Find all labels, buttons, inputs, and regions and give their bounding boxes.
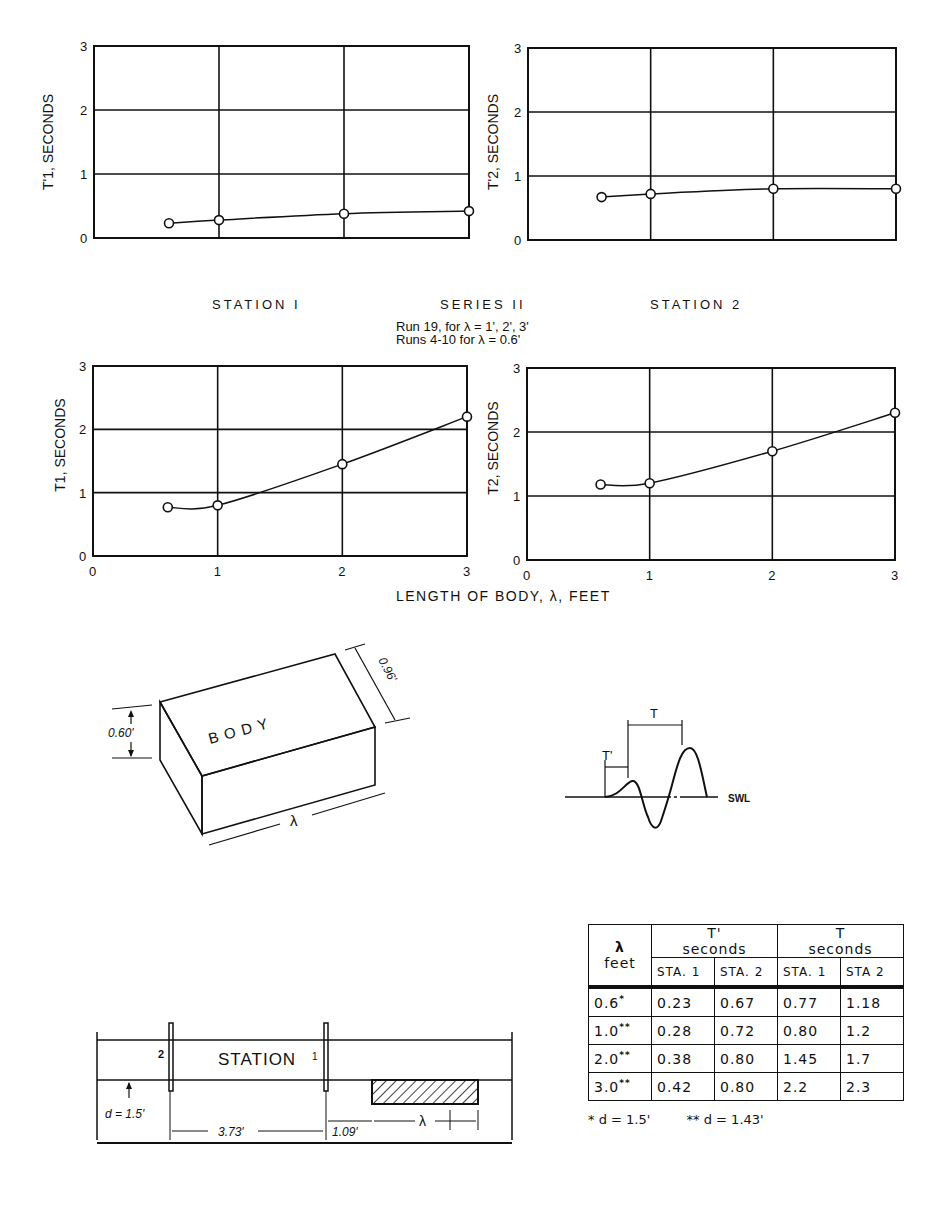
chart-t2prime-station2: 0123 — [514, 41, 901, 248]
data-point-marker — [463, 412, 472, 421]
data-point-marker — [340, 209, 349, 218]
period-table: λ feet T' seconds T seconds STA. 1 STA. … — [588, 924, 904, 1101]
depth-label: d = 1.5' — [105, 1107, 145, 1121]
chart-t1prime-station1: 0123 — [80, 39, 474, 246]
header-t: T seconds — [778, 925, 904, 958]
y-axis-label-t1prime: T'1, SECONDS — [40, 94, 56, 190]
y-tick-label: 3 — [513, 361, 520, 376]
gauge1-label: 1 — [312, 1051, 318, 1062]
y-tick-label: 3 — [79, 359, 86, 374]
y-tick-label: 0 — [513, 553, 520, 568]
table-row: 1.0** 0.280.72 0.801.2 — [589, 1017, 904, 1045]
x-tick-label: 0 — [523, 568, 530, 583]
y-tick-label: 3 — [514, 41, 521, 56]
table-footnotes: * d = 1.5' ** d = 1.43' — [588, 1112, 764, 1127]
arrow-icon — [128, 750, 134, 757]
data-point-marker — [891, 408, 900, 417]
body-label: B O D Y — [206, 714, 270, 746]
footnote-1: * d = 1.5' — [588, 1112, 650, 1127]
header-lambda: λ feet — [589, 925, 652, 988]
x-tick-label: 3 — [891, 568, 898, 583]
gauge2-label: 2 — [158, 1048, 164, 1060]
y-tick-label: 2 — [79, 422, 86, 437]
data-point-marker — [646, 189, 655, 198]
length-label: λ — [419, 1113, 426, 1129]
y-tick-label: 0 — [514, 233, 521, 248]
body-model — [372, 1080, 478, 1104]
data-point-marker — [165, 219, 174, 228]
length-dim-label: λ — [290, 812, 298, 829]
table-row: 0.6* 0.230.67 0.771.18 — [589, 987, 904, 1017]
table-row: 2.0** 0.380.80 1.451.7 — [589, 1045, 904, 1073]
channel-diagram: d = 1.5' 3.73' 1.09' λ 2 STATION 1 — [80, 1020, 540, 1160]
x-tick-label: 2 — [338, 564, 345, 579]
arrow-icon — [128, 710, 134, 717]
data-point-marker — [597, 193, 606, 202]
y-axis-label-t1: T1, SECONDS — [52, 398, 68, 491]
height-dim-label: 0.60' — [108, 726, 134, 740]
header-tprime: T' seconds — [652, 925, 778, 958]
y-axis-label-t2prime: T'2, SECONDS — [485, 94, 501, 190]
data-point-marker — [596, 480, 605, 489]
data-point-marker — [769, 184, 778, 193]
tprime-label: T' — [602, 748, 612, 763]
subheader-sta2-tprime: STA. 2 — [715, 958, 778, 988]
data-point-marker — [213, 501, 222, 510]
data-point-marker — [465, 207, 474, 216]
station-label: STATION — [218, 1050, 296, 1069]
y-tick-label: 0 — [80, 231, 87, 246]
x-tick-label: 1 — [214, 564, 221, 579]
y-tick-label: 3 — [80, 39, 87, 54]
x-tick-label: 2 — [768, 568, 775, 583]
data-point-marker — [768, 447, 777, 456]
swl-label: SWL — [728, 793, 750, 804]
width-dim-label: 0.96' — [375, 655, 400, 685]
subheader-sta2-t: STA 2 — [841, 958, 904, 988]
series-label: SERIES II — [440, 297, 526, 312]
x-axis-label: LENGTH OF BODY, λ, FEET — [396, 588, 611, 604]
chart-t1-station1: 01230123 — [79, 359, 472, 579]
subheader-sta1-t: STA. 1 — [778, 958, 841, 988]
y-tick-label: 1 — [79, 486, 86, 501]
wave-profile — [605, 748, 707, 828]
body-diagram: 0.60' 0.96' λ B O D Y — [0, 640, 560, 940]
y-tick-label: 1 — [513, 489, 520, 504]
series-line — [601, 413, 895, 486]
x-tick-label: 3 — [463, 564, 470, 579]
x-tick-label: 0 — [89, 564, 96, 579]
y-tick-label: 2 — [80, 103, 87, 118]
data-point-marker — [215, 216, 224, 225]
data-point-marker — [338, 460, 347, 469]
run-note-2: Runs 4-10 for λ = 0.6' — [396, 333, 520, 347]
station1-label: STATION I — [212, 297, 301, 312]
footnote-2: ** d = 1.43' — [687, 1112, 764, 1127]
data-point-marker — [645, 479, 654, 488]
x-tick-label: 1 — [646, 568, 653, 583]
wave-diagram: T' T SWL — [560, 690, 780, 840]
offset-label: 1.09' — [332, 1125, 358, 1139]
y-axis-label-t2: T2, SECONDS — [485, 401, 501, 494]
y-tick-label: 2 — [513, 425, 520, 440]
y-tick-label: 1 — [514, 169, 521, 184]
t-label: T — [650, 706, 658, 721]
y-tick-label: 1 — [80, 167, 87, 182]
data-point-marker — [163, 503, 172, 512]
data-point-marker — [892, 184, 901, 193]
table-row: 3.0** 0.420.80 2.22.3 — [589, 1073, 904, 1101]
subheader-sta1-tprime: STA. 1 — [652, 958, 715, 988]
station2-label: STATION 2 — [650, 297, 742, 312]
y-tick-label: 2 — [514, 105, 521, 120]
chart-t2-station2: 01230123 — [513, 361, 900, 583]
spacing-label: 3.73' — [218, 1125, 244, 1139]
y-tick-label: 0 — [79, 549, 86, 564]
series-line — [168, 417, 467, 509]
